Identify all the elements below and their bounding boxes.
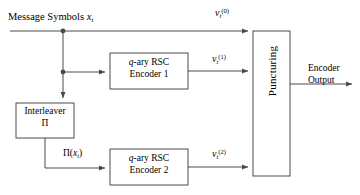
signal-label-v1: vt(1) xyxy=(212,53,226,65)
input-signal-label: Message Symbols xt xyxy=(8,11,93,24)
encoder-2-label: q-ary RSC Encoder 2 xyxy=(113,153,185,177)
encoder-1-line1-rest: -ary RSC xyxy=(134,57,170,67)
signal-v1-superscript: (1) xyxy=(218,53,226,60)
interleaver-pi-symbol: Π xyxy=(16,118,74,130)
signal-label-v2: vt(2) xyxy=(212,148,226,160)
interleaver-label-line1: Interleaver xyxy=(16,106,74,118)
encoder-2-line1-rest: -ary RSC xyxy=(134,153,170,163)
encoder-output-line1: Encoder xyxy=(308,62,340,74)
interleaved-close-paren: ) xyxy=(79,148,82,158)
encoder-2-label-line1: q-ary RSC xyxy=(113,153,185,165)
interleaved-signal-label: Π(xt) xyxy=(63,148,82,159)
turbo-encoder-diagram: Message Symbols xt Interleaver Π q-ary R… xyxy=(0,0,360,195)
signal-v0-superscript: (0) xyxy=(221,7,229,14)
interleaver-label: Interleaver Π xyxy=(16,106,74,130)
encoder-1-label-line1: q-ary RSC xyxy=(113,57,185,69)
encoder-2-label-line2: Encoder 2 xyxy=(113,165,185,177)
encoder-output-line2: Output xyxy=(308,74,340,86)
encoder-output-label: Encoder Output xyxy=(308,62,340,87)
junction-dot-encoder1 xyxy=(61,70,66,75)
junction-dot-top xyxy=(61,29,66,34)
encoder-1-label-line2: Encoder 1 xyxy=(113,69,185,81)
input-signal-subscript: t xyxy=(91,16,93,23)
signal-label-v0: vt(0) xyxy=(215,7,229,19)
signal-v2-superscript: (2) xyxy=(218,148,226,155)
encoder-1-label: q-ary RSC Encoder 1 xyxy=(113,57,185,81)
interleaved-pi-open: Π( xyxy=(63,148,73,158)
puncturing-label: Puncturing xyxy=(266,15,278,127)
input-signal-text: Message Symbols xyxy=(8,11,87,22)
